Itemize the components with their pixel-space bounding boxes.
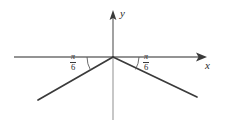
coordinate-diagram	[0, 0, 225, 133]
right-angle-arc	[136, 57, 140, 69]
right-angle-denominator: 6	[143, 63, 149, 72]
figure-canvas: y x π 6 π 6	[0, 0, 225, 133]
left-angle-arc	[87, 57, 91, 70]
x-axis-label: x	[205, 60, 210, 71]
left-angle-denominator: 6	[70, 63, 76, 72]
right-angle-label: π 6	[143, 53, 149, 72]
left-angle-label: π 6	[70, 53, 76, 72]
right-angle-numerator: π	[143, 53, 149, 61]
y-axis-label: y	[120, 8, 125, 19]
left-angle-numerator: π	[70, 53, 76, 61]
right-ray	[113, 57, 197, 97]
